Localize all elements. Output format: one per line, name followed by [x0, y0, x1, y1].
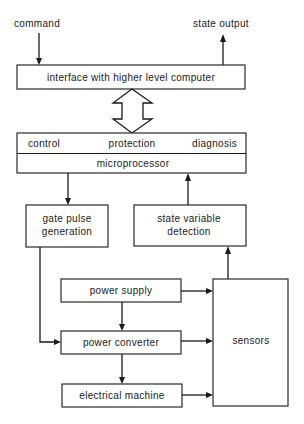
electrical-machine-label: electrical machine: [79, 390, 165, 401]
mp-to-gate-arrow: [65, 173, 71, 205]
power-supply-box: power supply: [61, 279, 181, 302]
interface-label: interface with higher level computer: [47, 72, 215, 83]
state-output-arrow: [220, 34, 226, 65]
gate-pulse-box: gate pulse generation: [26, 205, 108, 247]
block-diagram: command state output interface with high…: [0, 0, 304, 424]
function-diagnosis: diagnosis: [192, 138, 237, 149]
interface-box: interface with higher level computer: [17, 65, 245, 89]
supply-to-converter-arrow: [119, 302, 125, 331]
supply-to-sensors-arrow: [181, 288, 213, 294]
state-variable-line2: detection: [167, 226, 210, 237]
state-variable-line1: state variable: [157, 213, 221, 224]
gate-to-converter-arrow: [40, 247, 61, 345]
converter-to-machine-arrow: [119, 354, 125, 384]
state-to-mp-arrow: [185, 173, 191, 205]
gate-pulse-line1: gate pulse: [42, 213, 91, 224]
machine-to-sensors-arrow: [182, 392, 213, 398]
microprocessor-label: microprocessor: [97, 158, 170, 169]
gate-pulse-line2: generation: [42, 226, 92, 237]
converter-to-sensors-arrow: [181, 338, 213, 344]
electrical-machine-box: electrical machine: [62, 384, 182, 407]
microprocessor-box: control protection diagnosis microproces…: [17, 133, 246, 173]
function-protection: protection: [109, 138, 156, 149]
function-control: control: [28, 138, 60, 149]
command-label: command: [14, 18, 60, 29]
power-converter-box: power converter: [61, 331, 181, 354]
sensors-box: sensors: [213, 279, 288, 406]
sensors-to-state-arrow: [225, 246, 231, 279]
power-converter-label: power converter: [83, 337, 160, 348]
power-supply-label: power supply: [90, 285, 153, 296]
sensors-label: sensors: [232, 335, 269, 346]
command-arrow: [36, 33, 42, 65]
state-output-label: state output: [193, 18, 249, 29]
bidirectional-arrow-icon: [113, 89, 152, 133]
state-variable-box: state variable detection: [134, 205, 246, 246]
